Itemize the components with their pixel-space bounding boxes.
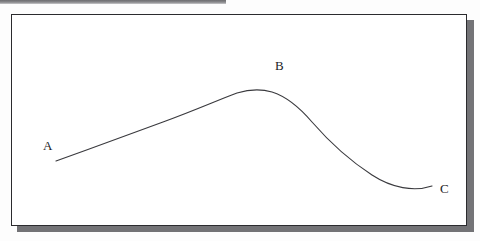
diagram-frame <box>11 14 467 226</box>
curve-label-a: A <box>43 139 53 152</box>
scanned-page: A B C <box>0 0 480 241</box>
top-scan-band <box>0 0 226 4</box>
curve-label-c: C <box>440 182 449 195</box>
curve-label-b: B <box>275 59 284 72</box>
